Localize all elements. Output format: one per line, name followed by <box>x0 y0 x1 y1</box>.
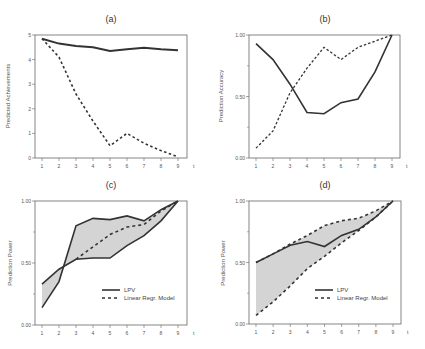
panel-b-dashed-line <box>256 35 392 148</box>
x-tick-label: 2 <box>58 163 61 169</box>
y-tick-label: 1 <box>28 130 31 136</box>
x-tick-label: 5 <box>109 330 112 336</box>
panel-a-xticks: 123456789 <box>41 158 180 169</box>
x-tick-label: 7 <box>357 329 360 335</box>
panel-c-yticks: 0.000.501.00 <box>21 198 35 328</box>
x-tick-label: 4 <box>306 163 309 169</box>
panel-c: (c) Prediction Power t 0.000.501.00 1234… <box>7 180 195 336</box>
panel-d-xlabel: t <box>407 329 409 335</box>
x-tick-label: 8 <box>374 329 377 335</box>
panel-a-dashed-line <box>42 39 178 157</box>
panel-a-ylabel: Predicted Achievements <box>5 64 11 128</box>
x-tick-label: 1 <box>255 329 258 335</box>
panel-c-title: (c) <box>106 180 117 190</box>
panel-b-ylabel: Prediction Accuracy <box>218 70 224 123</box>
y-tick-label: 0.50 <box>21 260 31 266</box>
x-tick-label: 3 <box>289 163 292 169</box>
x-tick-label: 7 <box>143 163 146 169</box>
panel-d-yticks: 0.000.501.00 <box>235 198 249 327</box>
x-tick-label: 6 <box>340 163 343 169</box>
x-tick-label: 3 <box>289 329 292 335</box>
x-tick-label: 1 <box>255 163 258 169</box>
x-tick-label: 9 <box>392 329 395 335</box>
panel-a: (a) Predicted Achievements t 012345 1234… <box>5 14 195 169</box>
x-tick-label: 2 <box>58 330 61 336</box>
x-tick-label: 9 <box>177 330 180 336</box>
x-tick-label: 8 <box>160 163 163 169</box>
y-tick-label: 2 <box>28 106 31 112</box>
panel-b-xticks: 123456789 <box>255 158 394 169</box>
panel-a-xlabel: t <box>193 163 195 169</box>
x-tick-label: 6 <box>126 330 129 336</box>
legend-linear-regr-label: Linear Regr. Model <box>337 295 388 301</box>
y-tick-label: 0.00 <box>21 322 31 328</box>
x-tick-label: 4 <box>306 329 309 335</box>
x-tick-label: 4 <box>92 163 95 169</box>
x-tick-label: 5 <box>323 329 326 335</box>
panel-c-ylabel: Prediction Power <box>7 240 13 285</box>
x-tick-label: 8 <box>374 163 377 169</box>
panel-c-xticks: 123456789 <box>41 325 180 336</box>
x-tick-label: 9 <box>177 163 180 169</box>
x-tick-label: 9 <box>391 163 394 169</box>
panel-a-yticks: 012345 <box>28 32 35 161</box>
y-tick-label: 1.00 <box>21 198 31 204</box>
panel-d: (d) Prediction Power t 0.000.501.00 1234… <box>220 180 409 335</box>
y-tick-label: 5 <box>28 32 31 38</box>
legend-lpv-label: LPV <box>337 287 348 293</box>
x-tick-label: 7 <box>143 330 146 336</box>
y-tick-label: 0.00 <box>235 155 245 161</box>
panel-d-title: (d) <box>320 180 331 190</box>
x-tick-label: 6 <box>340 329 343 335</box>
panel-d-xticks: 123456789 <box>255 324 395 335</box>
panel-b: (b) Prediction Accuracy t 0.000.501.00 1… <box>218 14 408 169</box>
x-tick-label: 4 <box>92 330 95 336</box>
x-tick-label: 6 <box>126 163 129 169</box>
x-tick-label: 5 <box>109 163 112 169</box>
panel-c-legend: LPV Linear Regr. Model <box>102 287 175 301</box>
panel-c-xlabel: t <box>193 330 195 336</box>
panel-c-shaded-band <box>42 201 178 308</box>
panel-a-title: (a) <box>106 14 117 24</box>
y-tick-label: 0.50 <box>235 94 245 100</box>
x-tick-label: 7 <box>357 163 360 169</box>
figure-canvas: (a) Predicted Achievements t 012345 1234… <box>0 0 425 349</box>
panel-a-frame <box>35 35 187 158</box>
legend-linear-regr-label: Linear Regr. Model <box>124 295 175 301</box>
y-tick-label: 0.00 <box>235 321 245 327</box>
panel-b-title: (b) <box>320 14 331 24</box>
panel-b-xlabel: t <box>406 163 408 169</box>
panel-b-frame <box>249 35 400 158</box>
y-tick-label: 3 <box>28 81 31 87</box>
y-tick-label: 1.00 <box>235 32 245 38</box>
x-tick-label: 8 <box>160 330 163 336</box>
legend-lpv-label: LPV <box>124 287 135 293</box>
x-tick-label: 2 <box>272 163 275 169</box>
panel-d-ylabel: Prediction Power <box>220 240 226 285</box>
panel-b-yticks: 0.000.501.00 <box>235 32 249 161</box>
x-tick-label: 3 <box>75 330 78 336</box>
x-tick-label: 2 <box>272 329 275 335</box>
y-tick-label: 4 <box>28 57 31 63</box>
x-tick-label: 3 <box>75 163 78 169</box>
x-tick-label: 5 <box>323 163 326 169</box>
panel-d-legend: LPV Linear Regr. Model <box>315 287 388 301</box>
x-tick-label: 1 <box>41 163 44 169</box>
panel-a-solid-line <box>42 39 178 51</box>
y-tick-label: 1.00 <box>235 198 245 204</box>
y-tick-label: 0.50 <box>235 260 245 266</box>
x-tick-label: 1 <box>41 330 44 336</box>
y-tick-label: 0 <box>28 155 31 161</box>
